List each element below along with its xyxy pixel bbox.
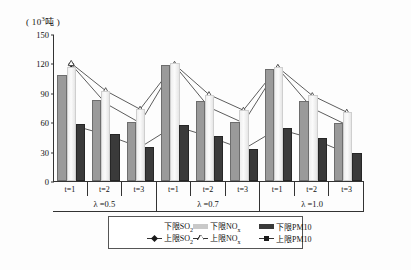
x-axis-time-label: t=3	[329, 182, 364, 196]
legend-item-lower_pm10[interactable]: 下限PM10	[259, 221, 312, 232]
bar-pm10	[318, 138, 327, 181]
bar-pm10	[145, 147, 154, 181]
bar-so2	[230, 122, 239, 181]
y-axis-tick-mark	[51, 64, 54, 65]
bar-pm10	[214, 136, 223, 181]
bar-nox	[308, 95, 317, 181]
legend-item-upper_pm10[interactable]: 上限PM10	[259, 233, 312, 244]
legend-label-upper_nox: 上限NOx	[210, 232, 241, 245]
y-axis-tick-mark	[51, 93, 54, 94]
y-axis-unit-caption: ( 103吨 )	[26, 15, 60, 28]
bar-group	[296, 35, 331, 181]
bar-pm10	[179, 125, 188, 181]
chart-figure: ( 103吨 ) 0306090120150 t=1t=2t=3λ =0.5t=…	[0, 0, 411, 270]
bar-pm10	[283, 128, 292, 181]
bar-nox	[274, 67, 283, 181]
x-axis-time-label: t=3	[122, 182, 157, 196]
bar-nox	[136, 109, 145, 181]
x-axis-time-label: t=2	[191, 182, 226, 196]
legend-item-lower_so2[interactable]: 下限SO2	[115, 220, 193, 233]
bar-nox	[67, 67, 76, 181]
x-axis-time-label: t=2	[88, 182, 123, 196]
legend-row-lower: 下限SO2下限NOx下限PM10	[115, 220, 296, 232]
bar-group	[261, 35, 296, 181]
chart-legend: 下限SO2下限NOx下限PM10 上限SO2上限NOx上限PM10	[108, 216, 303, 249]
legend-label-upper_pm10: 上限PM10	[276, 233, 312, 244]
bar-group	[158, 35, 193, 181]
legend-swatch-lower_nox	[193, 224, 208, 229]
y-axis-tick-mark	[51, 123, 54, 124]
bar-so2	[57, 75, 66, 181]
bar-pm10	[352, 153, 361, 181]
x-axis-time-label: t=1	[53, 182, 88, 196]
legend-marker-upper_so2	[151, 234, 158, 241]
bar-pm10	[249, 149, 258, 181]
bar-pm10	[76, 124, 85, 181]
bar-so2	[127, 122, 136, 181]
bar-so2	[196, 101, 205, 181]
bar-group	[54, 35, 89, 181]
bar-so2	[265, 69, 274, 181]
legend-row-upper: 上限SO2上限NOx上限PM10	[115, 232, 296, 244]
legend-item-upper_so2[interactable]: 上限SO2	[115, 232, 193, 245]
plot-inner	[54, 35, 364, 181]
x-axis-time-label: t=2	[295, 182, 330, 196]
bar-group	[89, 35, 124, 181]
legend-swatch-lower_pm10	[259, 224, 274, 229]
bar-group	[192, 35, 227, 181]
bar-so2	[334, 123, 343, 181]
bar-nox	[170, 63, 179, 181]
bar-nox	[343, 112, 352, 181]
legend-line-swatch-upper_nox	[193, 234, 208, 242]
plot-area: 0306090120150	[53, 35, 364, 182]
legend-item-upper_nox[interactable]: 上限NOx	[193, 232, 259, 245]
bar-group	[227, 35, 262, 181]
legend-line-swatch-upper_so2	[147, 234, 162, 242]
legend-label-lower_so2: 下限SO2	[164, 220, 193, 233]
legend-item-lower_nox[interactable]: 下限NOx	[193, 220, 259, 233]
bar-pm10	[110, 134, 119, 181]
y-axis-tick-mark	[51, 152, 54, 153]
bar-so2	[299, 101, 308, 181]
bar-group	[123, 35, 158, 181]
x-axis-time-label: t=3	[226, 182, 261, 196]
x-axis-group-label: λ =1.0	[260, 196, 364, 212]
x-axis-group-label: λ =0.7	[157, 196, 261, 212]
x-axis-time-label: t=1	[157, 182, 192, 196]
bar-nox	[101, 91, 110, 181]
legend-label-lower_pm10: 下限PM10	[276, 221, 312, 232]
x-axis-time-label: t=1	[260, 182, 295, 196]
bar-so2	[161, 65, 170, 181]
legend-marker-upper_nox	[198, 235, 204, 240]
y-axis-tick-mark	[51, 35, 54, 36]
x-axis-group-label: λ =0.5	[53, 196, 157, 212]
x-axis: t=1t=2t=3λ =0.5t=1t=2t=3λ =0.7t=1t=2t=3λ…	[53, 182, 364, 212]
bar-group	[330, 35, 365, 181]
bar-nox	[205, 95, 214, 181]
legend-line-swatch-upper_pm10	[259, 234, 274, 242]
bar-nox	[239, 110, 248, 181]
legend-marker-upper_pm10	[264, 236, 269, 241]
legend-label-upper_so2: 上限SO2	[164, 232, 193, 245]
legend-label-lower_nox: 下限NOx	[210, 220, 241, 233]
bar-so2	[92, 100, 101, 181]
